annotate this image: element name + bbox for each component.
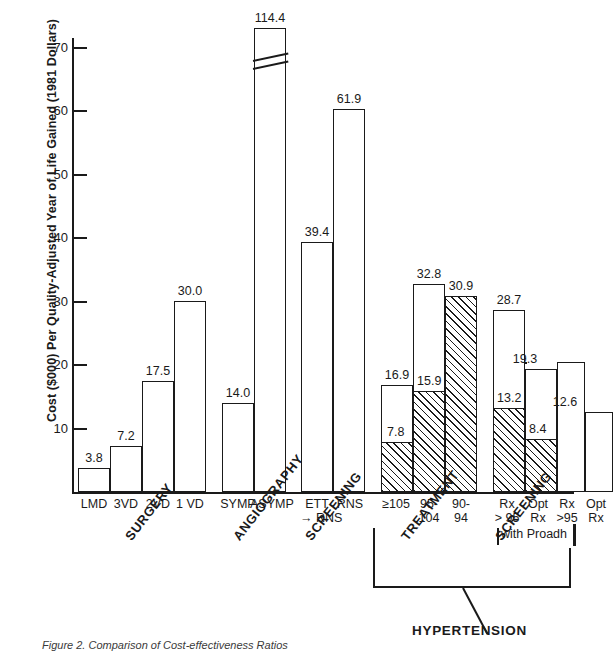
bracket-right-edge — [569, 548, 571, 588]
bar-subvalue-95-104: 15.9 — [416, 375, 442, 388]
y-tick-10 — [74, 428, 87, 430]
y-tick-label-40: 40 — [38, 230, 68, 245]
x-axis-line — [72, 492, 574, 494]
x-tick-label-ge105-line1: ≥105 — [375, 497, 417, 511]
x-tick-label-3vd-line1: 3VD — [110, 497, 142, 511]
bar-value-1vd: 30.0 — [174, 284, 206, 298]
bar-ett — [301, 242, 333, 492]
x-tick-label-90-94-line2: 94 — [445, 511, 477, 525]
x-tick-label-1vd-line1: 1 VD — [174, 497, 206, 511]
bar-hatch-ge105 — [381, 442, 413, 492]
x-tick-label-lmd-line1: LMD — [78, 497, 110, 511]
bar-3vd — [110, 446, 142, 492]
proadh-bracket-left — [497, 528, 499, 545]
bar-value-ge105: 16.9 — [377, 368, 417, 382]
bar-hatch-90-94 — [445, 296, 477, 492]
bar-symp — [222, 403, 254, 492]
bar-value-opt-rx-screen: 12.6 — [545, 395, 585, 409]
bracket-bottom — [373, 586, 571, 588]
hypertension-label: HYPERTENSION — [412, 623, 527, 638]
bar-asymp — [254, 28, 286, 492]
bar-2vd — [142, 381, 174, 492]
x-tick-label-opt-rx-screen-line2: Rx — [581, 511, 611, 525]
x-tick-label-90-94: 90- 94 — [445, 497, 477, 525]
bar-value-90-94: 30.9 — [441, 279, 481, 293]
y-tick-label-50: 50 — [38, 167, 68, 182]
y-tick-30 — [74, 301, 87, 303]
x-tick-label-opt-rx-screen: OptRx — [581, 497, 611, 525]
proadh-bracket-right — [573, 524, 576, 546]
bar-hatch-95-104 — [413, 391, 445, 492]
y-tick-label-20: 20 — [38, 357, 68, 372]
figure-caption: Figure 2. Comparison of Cost-effectivene… — [42, 639, 288, 651]
x-tick-label-1vd: 1 VD — [174, 497, 206, 511]
bar-value-asymp: 114.4 — [250, 11, 290, 25]
y-tick-label-70: 70 — [38, 40, 68, 55]
bar-1vd — [174, 301, 206, 492]
y-tick-60 — [74, 110, 87, 112]
y-tick-label-60: 60 — [38, 103, 68, 118]
y-tick-20 — [74, 364, 87, 366]
bar-opt-rx-screen — [585, 412, 613, 492]
y-tick-70 — [74, 47, 87, 49]
x-tick-label-90-94-line1: 90- — [445, 497, 477, 511]
x-tick-label-rx-gt95-screen-line1: Rx — [553, 497, 581, 511]
x-tick-label-ge105: ≥105 — [375, 497, 417, 511]
bar-value-rns: 61.9 — [333, 92, 365, 106]
x-tick-label-3vd: 3VD — [110, 497, 142, 511]
bar-rx-gt95-screen — [525, 362, 527, 364]
bar-rns — [333, 109, 365, 492]
bar-value-symp: 14.0 — [222, 386, 254, 400]
bar-subvalue-rx-gt95-treat: 13.2 — [496, 392, 522, 405]
bar-value-3vd: 7.2 — [110, 429, 142, 443]
bracket-left-edge — [373, 528, 375, 588]
bar-subvalue-ge105: 7.8 — [386, 426, 405, 439]
bar-subvalue-opt-rx-treat: 8.4 — [528, 423, 547, 436]
x-tick-label-rx-gt95-screen: Rx >95 — [553, 497, 581, 525]
bar-value-rx-gt95-treat: 28.7 — [489, 293, 529, 307]
y-axis-line — [72, 38, 74, 494]
x-tick-label-opt-rx-screen-line1: Opt — [581, 497, 611, 511]
bar-value-lmd: 3.8 — [78, 451, 110, 465]
bar-lmd — [78, 468, 110, 492]
y-tick-40 — [74, 237, 87, 239]
x-tick-label-lmd: LMD — [78, 497, 110, 511]
bar-value-2vd: 17.5 — [142, 364, 174, 378]
bar-hatch-rx-gt95-treat — [493, 408, 525, 492]
bar-value-ett: 39.4 — [301, 225, 333, 239]
bar-rx-gt95-screen — [557, 362, 585, 492]
x-tick-label-rx-gt95-screen-line2: >95 — [553, 511, 581, 525]
y-tick-label-10: 10 — [38, 421, 68, 436]
y-tick-label-30: 30 — [38, 294, 68, 309]
y-tick-50 — [74, 174, 87, 176]
proadherence-note: with Proadh — [501, 527, 567, 541]
